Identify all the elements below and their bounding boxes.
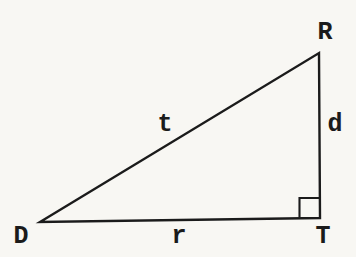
vertex-label-T: T [315,222,330,251]
vertex-label-R: R [317,18,332,47]
side-label-horizontal-r: r [171,222,186,251]
vertex-label-D: D [13,222,28,251]
side-label-vertical-d: d [327,110,342,139]
right-triangle-figure: R D T t d r [0,0,356,257]
side-label-hypotenuse-t: t [157,110,172,139]
scanned-figure-page: R D T t d r [0,0,356,257]
